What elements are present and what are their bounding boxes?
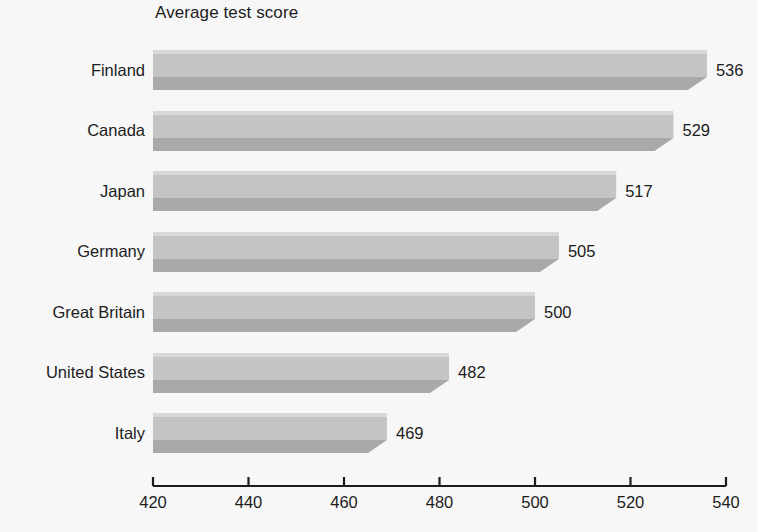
x-tick-label-500: 500 — [521, 494, 549, 511]
bar-row: United States482 — [0, 353, 757, 393]
x-tick-label-540: 540 — [712, 494, 740, 511]
x-tick-label-420: 420 — [139, 494, 167, 511]
bar-row: Japan517 — [0, 171, 757, 211]
bar-canada — [153, 111, 677, 153]
bar-chart: Average test score Finland536Canada529Ja… — [0, 0, 757, 532]
x-tick-label-460: 460 — [330, 494, 358, 511]
bar-row: Germany505 — [0, 232, 757, 272]
value-label-united-states: 482 — [458, 364, 486, 381]
category-label-canada: Canada — [87, 122, 145, 139]
bar-row: Finland536 — [0, 50, 757, 90]
bar-row: Italy469 — [0, 413, 757, 453]
value-label-finland: 536 — [716, 62, 744, 79]
category-label-great-britain: Great Britain — [52, 304, 145, 321]
category-label-italy: Italy — [115, 425, 145, 442]
bar-italy — [153, 413, 391, 455]
category-label-finland: Finland — [91, 62, 145, 79]
category-label-united-states: United States — [46, 364, 145, 381]
bar-great-britain — [153, 292, 539, 334]
category-label-germany: Germany — [77, 243, 145, 260]
chart-title: Average test score — [155, 3, 298, 23]
bar-united-states — [153, 353, 453, 395]
category-label-japan: Japan — [100, 183, 145, 200]
value-label-great-britain: 500 — [544, 304, 572, 321]
x-tick-label-440: 440 — [235, 494, 263, 511]
bar-finland — [153, 50, 711, 92]
bar-row: Canada529 — [0, 111, 757, 151]
value-label-canada: 529 — [682, 122, 710, 139]
value-label-japan: 517 — [625, 183, 653, 200]
value-label-italy: 469 — [396, 425, 424, 442]
bar-row: Great Britain500 — [0, 292, 757, 332]
bar-germany — [153, 232, 563, 274]
x-tick-label-520: 520 — [617, 494, 645, 511]
bar-japan — [153, 171, 620, 213]
x-tick-label-480: 480 — [426, 494, 454, 511]
value-label-germany: 505 — [568, 243, 596, 260]
